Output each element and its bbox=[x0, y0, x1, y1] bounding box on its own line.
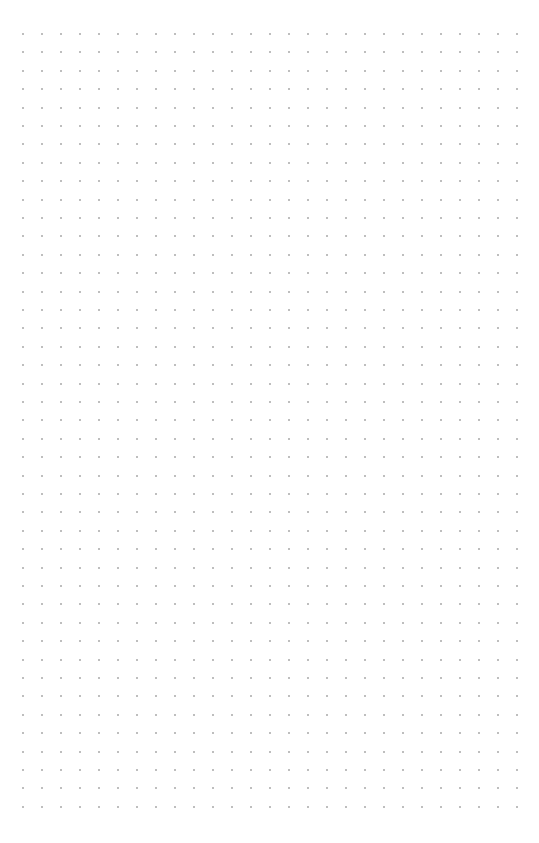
grid-dot bbox=[212, 217, 214, 219]
grid-dot bbox=[193, 272, 195, 274]
grid-dot bbox=[516, 714, 518, 716]
grid-dot bbox=[478, 272, 480, 274]
grid-dot bbox=[459, 51, 461, 53]
grid-dot bbox=[516, 456, 518, 458]
grid-dot bbox=[79, 493, 81, 495]
grid-dot bbox=[193, 235, 195, 237]
grid-dot bbox=[136, 585, 138, 587]
grid-dot bbox=[117, 695, 119, 697]
grid-dot bbox=[326, 732, 328, 734]
grid-dot bbox=[497, 125, 499, 127]
grid-dot bbox=[421, 530, 423, 532]
grid-dot bbox=[41, 309, 43, 311]
grid-dot bbox=[136, 309, 138, 311]
grid-dot bbox=[22, 291, 24, 293]
grid-dot bbox=[345, 438, 347, 440]
grid-dot bbox=[79, 364, 81, 366]
grid-dot bbox=[79, 309, 81, 311]
grid-dot bbox=[364, 33, 366, 35]
grid-dot bbox=[231, 383, 233, 385]
grid-dot bbox=[174, 143, 176, 145]
grid-dot bbox=[326, 659, 328, 661]
grid-dot bbox=[79, 88, 81, 90]
grid-dot bbox=[326, 125, 328, 127]
grid-dot bbox=[421, 70, 423, 72]
grid-dot bbox=[478, 346, 480, 348]
grid-dot bbox=[421, 33, 423, 35]
grid-dot bbox=[79, 622, 81, 624]
grid-dot bbox=[155, 456, 157, 458]
grid-dot bbox=[383, 107, 385, 109]
grid-dot bbox=[231, 162, 233, 164]
grid-dot bbox=[212, 548, 214, 550]
grid-dot bbox=[288, 493, 290, 495]
grid-dot bbox=[60, 511, 62, 513]
grid-dot bbox=[155, 677, 157, 679]
grid-dot bbox=[326, 419, 328, 421]
grid-dot bbox=[22, 493, 24, 495]
grid-dot bbox=[326, 714, 328, 716]
grid-dot bbox=[326, 143, 328, 145]
grid-dot bbox=[307, 475, 309, 477]
grid-dot bbox=[497, 327, 499, 329]
grid-dot bbox=[364, 70, 366, 72]
grid-dot bbox=[459, 695, 461, 697]
grid-dot bbox=[307, 51, 309, 53]
grid-dot bbox=[79, 272, 81, 274]
grid-dot bbox=[269, 787, 271, 789]
grid-dot bbox=[98, 199, 100, 201]
grid-dot bbox=[383, 180, 385, 182]
grid-dot bbox=[326, 327, 328, 329]
grid-dot bbox=[250, 659, 252, 661]
grid-dot bbox=[345, 107, 347, 109]
grid-dot bbox=[98, 511, 100, 513]
grid-dot bbox=[421, 107, 423, 109]
grid-dot bbox=[41, 70, 43, 72]
grid-dot bbox=[402, 143, 404, 145]
grid-dot bbox=[421, 806, 423, 808]
grid-dot bbox=[364, 180, 366, 182]
grid-dot bbox=[60, 364, 62, 366]
grid-dot bbox=[364, 51, 366, 53]
grid-dot bbox=[174, 364, 176, 366]
grid-dot bbox=[117, 787, 119, 789]
grid-dot bbox=[79, 125, 81, 127]
grid-dot bbox=[440, 787, 442, 789]
grid-dot bbox=[212, 51, 214, 53]
grid-dot bbox=[402, 659, 404, 661]
grid-dot bbox=[60, 383, 62, 385]
grid-dot bbox=[41, 751, 43, 753]
grid-dot bbox=[364, 530, 366, 532]
grid-dot bbox=[41, 180, 43, 182]
grid-dot bbox=[117, 401, 119, 403]
grid-dot bbox=[193, 585, 195, 587]
grid-dot bbox=[174, 419, 176, 421]
grid-dot bbox=[22, 419, 24, 421]
grid-dot bbox=[117, 677, 119, 679]
grid-dot bbox=[478, 751, 480, 753]
grid-dot bbox=[364, 677, 366, 679]
grid-dot bbox=[497, 88, 499, 90]
grid-dot bbox=[22, 659, 24, 661]
grid-dot bbox=[212, 364, 214, 366]
grid-dot bbox=[117, 143, 119, 145]
grid-dot bbox=[307, 419, 309, 421]
grid-dot bbox=[421, 272, 423, 274]
grid-dot bbox=[231, 199, 233, 201]
grid-dot bbox=[440, 272, 442, 274]
grid-dot bbox=[497, 272, 499, 274]
grid-dot bbox=[41, 235, 43, 237]
grid-dot bbox=[136, 548, 138, 550]
grid-dot bbox=[516, 493, 518, 495]
grid-dot bbox=[174, 751, 176, 753]
grid-dot bbox=[212, 327, 214, 329]
grid-dot bbox=[440, 254, 442, 256]
grid-dot bbox=[326, 475, 328, 477]
grid-dot bbox=[307, 291, 309, 293]
grid-dot bbox=[60, 769, 62, 771]
grid-dot bbox=[440, 383, 442, 385]
grid-dot bbox=[41, 548, 43, 550]
grid-dot bbox=[41, 714, 43, 716]
grid-dot bbox=[117, 88, 119, 90]
grid-dot bbox=[155, 511, 157, 513]
